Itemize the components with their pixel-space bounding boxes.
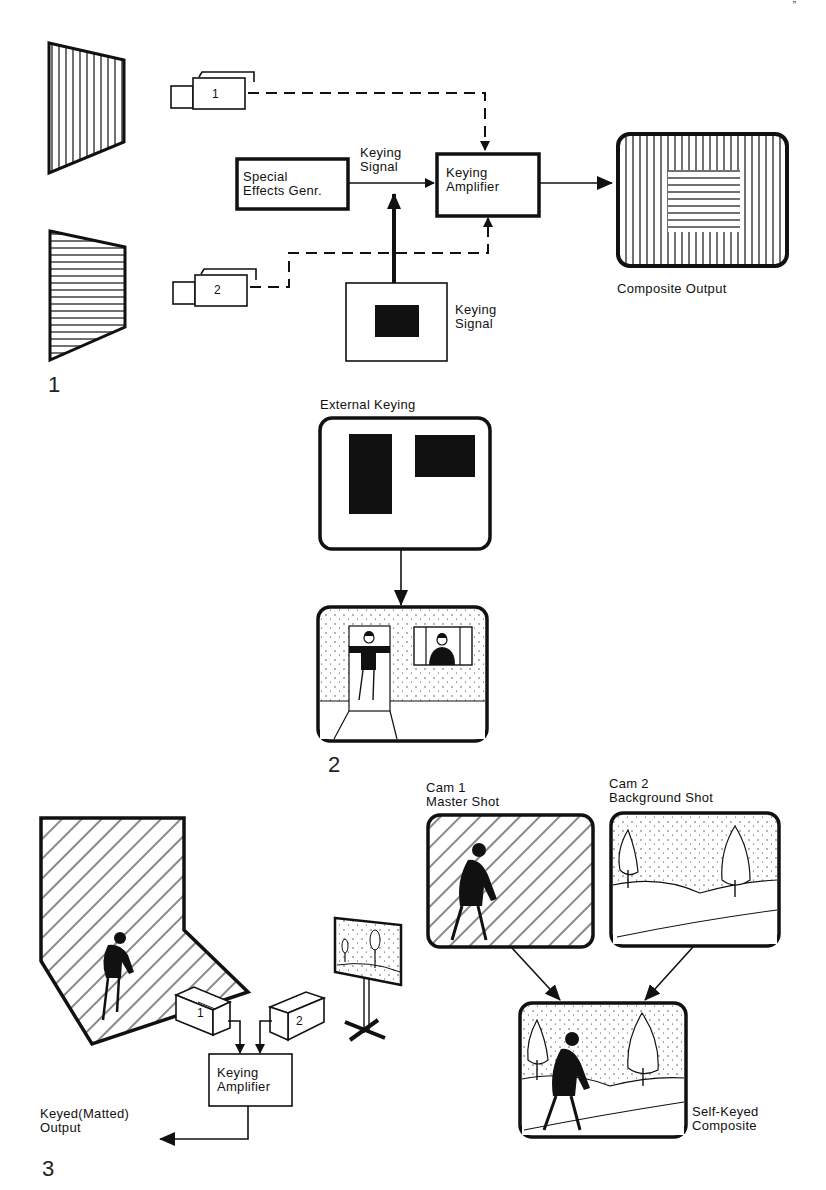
background-easel [335, 918, 401, 1040]
keying-signal-top-line-1: Keying [360, 146, 402, 160]
camera-1-3d-label: 1 [197, 1006, 204, 1020]
sfx-line-1: Special [243, 170, 322, 184]
figure-3-number: 3 [42, 1156, 54, 1182]
cam1-label: Cam 1 Master Shot [426, 781, 499, 809]
figure-2-number: 2 [328, 752, 340, 778]
backdrop-horizontal-stripes [50, 231, 125, 360]
keying-signal-bottom-line-2: Signal [455, 317, 497, 331]
keying-signal-bottom-label: Keying Signal [455, 303, 497, 331]
keying-amplifier-line-2: Amplifier [446, 180, 499, 194]
keying-amplifier-label: Keying Amplifier [446, 166, 499, 194]
backdrop-vertical-stripes [49, 43, 124, 173]
figure-3 [41, 813, 779, 1139]
keying-matte-block [375, 305, 419, 337]
cam1-master-shot-monitor [428, 815, 593, 947]
sfx-line-2: Effects Genr. [243, 184, 322, 198]
cam1-line-2: Master Shot [426, 795, 499, 809]
keyed-output-label: Keyed(Matted) Output [40, 1107, 129, 1135]
cam2-line-2: Background Shot [609, 791, 713, 805]
keying-amplifier-3-label: Keying Amplifier [217, 1066, 270, 1094]
keying-amplifier-3-line-1: Keying [217, 1066, 270, 1080]
keyed-output-line-1: Keyed(Matted) [40, 1107, 129, 1121]
external-keying-title: External Keying [320, 398, 416, 412]
figure-2 [318, 418, 490, 741]
cam2-line-1: Cam 2 [609, 777, 713, 791]
page-corner-mark: ” [793, 0, 796, 11]
camera-2-label: 2 [214, 283, 221, 297]
figure-1-number: 1 [48, 372, 60, 398]
self-keyed-line-2: Composite [692, 1119, 759, 1133]
composite-output-label: Composite Output [617, 282, 727, 296]
diagram-canvas [0, 0, 826, 1190]
sfx-generator-label: Special Effects Genr. [243, 170, 322, 198]
keying-signal-top-label: Keying Signal [360, 146, 402, 174]
camera-1-label: 1 [212, 87, 219, 101]
keying-amplifier-line-1: Keying [446, 166, 499, 180]
camera-2-3d-label: 2 [296, 1014, 303, 1028]
cam1-signal-line [248, 93, 485, 150]
cam1-line-1: Cam 1 [426, 781, 499, 795]
cam2-signal-line [250, 218, 488, 287]
keyed-output-line-2: Output [40, 1121, 129, 1135]
self-keyed-line-1: Self-Keyed [692, 1105, 759, 1119]
self-keyed-composite-label: Self-Keyed Composite [692, 1105, 759, 1133]
figure-1 [49, 43, 787, 361]
cam2-label: Cam 2 Background Shot [609, 777, 713, 805]
keying-amplifier-3-line-2: Amplifier [217, 1080, 270, 1094]
keying-signal-bottom-line-1: Keying [455, 303, 497, 317]
keying-signal-top-line-2: Signal [360, 160, 402, 174]
